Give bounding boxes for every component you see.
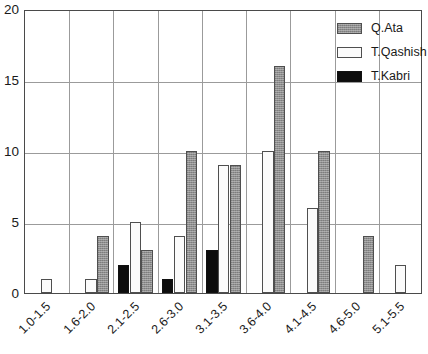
bar: [230, 165, 241, 293]
legend-swatch-ata: [337, 23, 362, 34]
bar: [395, 265, 406, 293]
x-tick-label: 3.6-4.0: [238, 300, 274, 336]
bar: [186, 151, 197, 293]
legend-item[interactable]: T.Kabri: [337, 65, 423, 87]
legend-swatch-qashish: [337, 47, 362, 58]
y-tick-label: 0: [11, 287, 19, 301]
x-tick-label: 3.1-3.5: [194, 300, 230, 336]
y-axis: 05101520: [0, 0, 22, 300]
chart-legend: Q.AtaT.QashishT.Kabri: [337, 14, 423, 92]
x-axis: 1.0-1.51.6-2.02.1-2.52.6-3.03.1-3.53.6-4…: [24, 294, 422, 354]
bar: [206, 250, 217, 293]
legend-item[interactable]: Q.Ata: [337, 17, 423, 39]
bar: [141, 250, 152, 293]
y-tick-label: 10: [4, 145, 19, 159]
bar: [307, 208, 318, 293]
legend-swatch-kabri: [337, 71, 362, 82]
bar: [363, 236, 374, 293]
legend-label: T.Kabri: [371, 69, 410, 83]
bar: [318, 151, 329, 293]
y-tick-label: 20: [4, 3, 19, 17]
bar: [130, 222, 141, 293]
bar: [97, 236, 108, 293]
x-tick-label: 5.1-5.5: [371, 300, 407, 336]
x-tick-label: 2.6-3.0: [149, 300, 185, 336]
bar: [85, 279, 96, 293]
x-tick-label: 4.1-4.5: [282, 300, 318, 336]
x-tick-label: 1.6-2.0: [61, 300, 97, 336]
bar: [274, 66, 285, 293]
x-tick-label: 4.6-5.0: [326, 300, 362, 336]
x-tick-label: 1.0-1.5: [17, 300, 53, 336]
bar: [262, 151, 273, 293]
x-tick-label: 2.1-2.5: [105, 300, 141, 336]
legend-label: Q.Ata: [371, 21, 403, 35]
y-tick-label: 5: [11, 216, 19, 230]
bar: [162, 279, 173, 293]
bar: [118, 265, 129, 293]
legend-label: T.Qashish: [371, 45, 427, 59]
bar: [174, 236, 185, 293]
bar-chart: 05101520 1.0-1.51.6-2.02.1-2.52.6-3.03.1…: [0, 0, 428, 354]
bar: [218, 165, 229, 293]
legend-item[interactable]: T.Qashish: [337, 41, 423, 63]
y-tick-label: 15: [4, 74, 19, 88]
bar: [41, 279, 52, 293]
